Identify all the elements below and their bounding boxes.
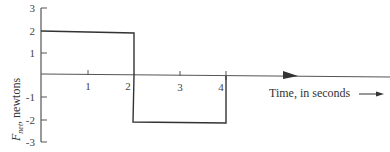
x-tick-label: 3 — [177, 81, 183, 93]
y-tick-label: 1 — [30, 47, 36, 59]
y-tick-label: -3 — [26, 136, 36, 148]
x-tick-label: 4 — [218, 81, 224, 93]
x-tick-label: 2 — [125, 80, 131, 92]
x-axis-arrow-icon — [283, 71, 298, 79]
x-axis-label: Time, in seconds — [269, 86, 351, 100]
force-series-line — [41, 31, 226, 123]
y-tick-label: -1 — [26, 91, 35, 103]
y-tick-label: -2 — [26, 114, 35, 126]
y-tick-label: 2 — [30, 25, 36, 37]
force-time-chart: 3 2 1 -1 -2 -3 1 2 3 4 Time, in seconds … — [0, 0, 390, 152]
x-tick-label: 1 — [85, 80, 91, 92]
y-axis-label: Fnet, newtons — [9, 78, 25, 142]
y-tick-label: 3 — [30, 2, 36, 14]
y-label-rest: , newtons — [9, 78, 23, 124]
x-axis — [41, 74, 390, 77]
x-label-arrow-icon — [376, 92, 384, 97]
svg-text:Fnet, newtons: Fnet, newtons — [9, 78, 25, 142]
